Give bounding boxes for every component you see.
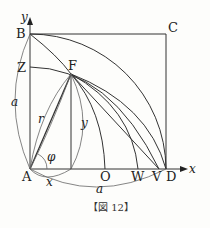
label-y-axis: y: [20, 10, 28, 24]
label-side-a-horizontal: a: [96, 182, 103, 196]
label-Z: Z: [17, 60, 26, 75]
y-axis-arrow-icon: [27, 17, 33, 25]
geometry-diagram: y x B C Z F A O W V D a r y φ x a 【図 12】: [0, 0, 210, 228]
label-height-y: y: [80, 116, 88, 130]
label-V: V: [151, 169, 162, 184]
label-B: B: [16, 26, 26, 41]
curve-FO: [71, 74, 105, 169]
label-F: F: [68, 58, 77, 73]
label-W: W: [131, 169, 145, 184]
curve-BF: [30, 34, 71, 74]
label-D: D: [166, 169, 176, 184]
arc-BD: [30, 34, 166, 169]
label-A: A: [21, 169, 32, 184]
label-x-axis: x: [189, 162, 196, 176]
label-side-a-vertical: a: [11, 95, 18, 109]
label-angle-phi: φ: [47, 150, 56, 164]
figure-caption: 【図 12】: [88, 202, 134, 213]
label-C: C: [168, 20, 178, 35]
x-axis-arrow-icon: [180, 166, 188, 172]
label-base-x: x: [46, 175, 53, 189]
angle-phi-arc: [38, 154, 47, 169]
